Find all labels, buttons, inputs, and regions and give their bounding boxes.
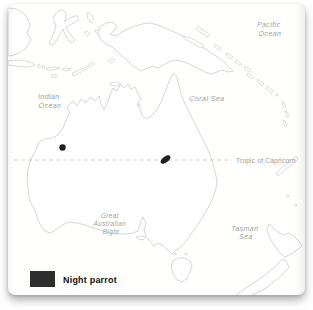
- tropic-of-capricorn-label: Tropic of Capricorn: [236, 157, 296, 165]
- legend: Night parrot: [30, 271, 117, 287]
- indian-ocean-label: Indian Ocean: [38, 93, 62, 109]
- map-canvas: Tropic of Capricorn Pacific Ocean Indian…: [8, 4, 305, 295]
- legend-label: Night parrot: [63, 275, 117, 285]
- map-figure-card: Tropic of Capricorn Pacific Ocean Indian…: [8, 4, 305, 295]
- coral-sea-label: Coral Sea: [189, 95, 224, 102]
- tasman-sea-label: Tasman Sea: [231, 225, 261, 240]
- pacific-ocean-label: Pacific Ocean: [257, 21, 283, 37]
- coastlines: [8, 8, 302, 295]
- legend-swatch: [30, 271, 55, 287]
- page: Tropic of Capricorn Pacific Ocean Indian…: [0, 0, 313, 310]
- range-marker-west: [59, 144, 65, 150]
